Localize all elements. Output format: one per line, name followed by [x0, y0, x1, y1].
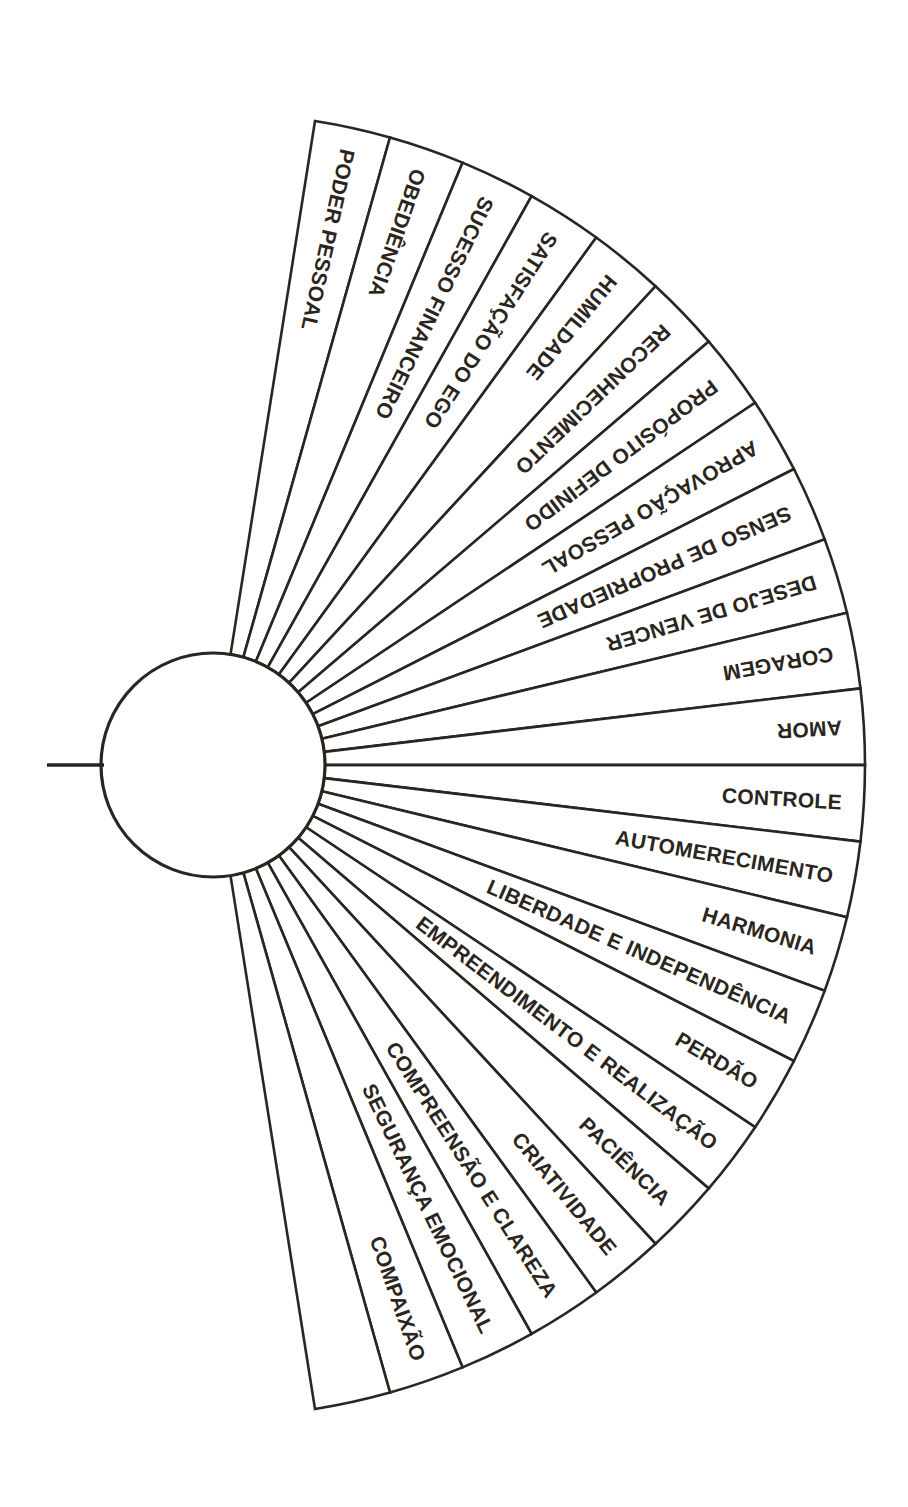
wheel-canvas: PODER PESSOALOBEDIÊNCIASUCESSO FINANCEIR… [0, 0, 908, 1507]
hub-circle [101, 653, 325, 877]
values-wheel-diagram: PODER PESSOALOBEDIÊNCIASUCESSO FINANCEIR… [0, 0, 908, 1507]
sector-label: AMOR [776, 716, 843, 743]
